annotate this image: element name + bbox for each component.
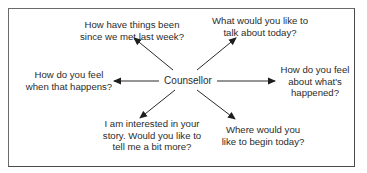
arrow-to-top-left [134, 38, 173, 70]
node-bottom-left: I am interested in your story. Would you… [96, 118, 208, 153]
node-bottom-right: Where would you like to begin today? [218, 124, 308, 147]
node-top-left: How have things been since we met last w… [72, 19, 192, 42]
node-left: How do you feel when that happens? [22, 69, 116, 92]
arrow-to-bottom-right [197, 90, 235, 119]
center-node-counsellor: Counsellor [158, 75, 218, 87]
arrow-to-bottom-left [140, 90, 175, 118]
arrow-to-top-right [197, 38, 236, 70]
node-top-right: What would you like to talk about today? [204, 15, 316, 38]
node-right: How do you feel about what's happened? [278, 64, 352, 99]
